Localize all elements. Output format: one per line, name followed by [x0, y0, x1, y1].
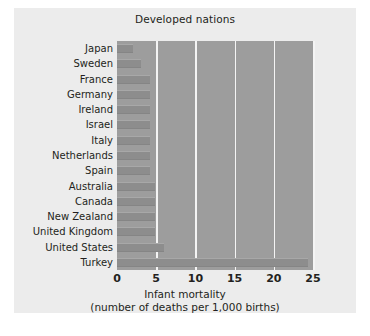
bar-row: [117, 133, 313, 148]
x-axis-label: Infant mortality (number of deaths per 1…: [14, 288, 356, 314]
y-axis-label-france: France: [14, 72, 113, 87]
y-axis-label-australia: Australia: [14, 178, 113, 193]
bar-france: [117, 75, 150, 84]
bar-row: [117, 41, 313, 56]
y-axis-label-italy: Italy: [14, 133, 113, 148]
y-axis-label-japan: Japan: [14, 41, 113, 56]
bar-israel: [117, 120, 150, 129]
plot-area: [117, 41, 313, 270]
bar-row: [117, 72, 313, 87]
y-axis-label-israel: Israel: [14, 117, 113, 132]
bar-row: [117, 224, 313, 239]
bar-row: [117, 255, 313, 270]
bar-canada: [117, 197, 155, 206]
bar-row: [117, 56, 313, 71]
bar-netherlands: [117, 151, 150, 160]
y-axis-label-sweden: Sweden: [14, 56, 113, 71]
bar-series: [117, 41, 313, 270]
y-axis-label-united-kingdom: United Kingdom: [14, 224, 113, 239]
y-axis-label-canada: Canada: [14, 194, 113, 209]
x-tick-label-5: 5: [152, 272, 160, 285]
y-axis-label-new-zealand: New Zealand: [14, 209, 113, 224]
bar-italy: [117, 136, 150, 145]
x-axis-tick-labels: 0510152025: [117, 272, 313, 288]
bar-united-kingdom: [117, 227, 155, 236]
x-tick-label-20: 20: [266, 272, 281, 285]
chart-title: Developed nations: [14, 13, 356, 25]
bar-row: [117, 148, 313, 163]
x-axis-label-line1: Infant mortality: [14, 288, 356, 301]
bar-spain: [117, 166, 150, 175]
y-axis-label-turkey: Turkey: [14, 255, 113, 270]
x-axis-label-line2: (number of deaths per 1,000 births): [14, 301, 356, 314]
bar-australia: [117, 182, 155, 191]
x-tick-label-15: 15: [227, 272, 242, 285]
bar-row: [117, 117, 313, 132]
bar-germany: [117, 90, 150, 99]
x-tick-label-0: 0: [113, 272, 121, 285]
bar-row: [117, 87, 313, 102]
y-axis-label-ireland: Ireland: [14, 102, 113, 117]
y-axis-label-united-states: United States: [14, 239, 113, 254]
bar-turkey: [117, 258, 308, 267]
chart-figure: Developed nations Japan Sweden France Ge…: [14, 8, 356, 313]
bar-new-zealand: [117, 212, 155, 221]
bar-ireland: [117, 105, 150, 114]
bar-united-states: [117, 243, 164, 252]
y-axis-label-netherlands: Netherlands: [14, 148, 113, 163]
bar-row: [117, 209, 313, 224]
bar-row: [117, 194, 313, 209]
x-tick-label-10: 10: [188, 272, 203, 285]
y-axis-label-germany: Germany: [14, 87, 113, 102]
bar-row: [117, 163, 313, 178]
x-tick-label-25: 25: [305, 272, 320, 285]
bar-row: [117, 102, 313, 117]
gridline-25: [313, 41, 315, 270]
bar-row: [117, 178, 313, 193]
bar-sweden: [117, 59, 141, 68]
bar-row: [117, 239, 313, 254]
y-axis-category-labels: Japan Sweden France Germany Ireland Isra…: [14, 41, 113, 270]
y-axis-label-spain: Spain: [14, 163, 113, 178]
bar-japan: [117, 44, 133, 53]
